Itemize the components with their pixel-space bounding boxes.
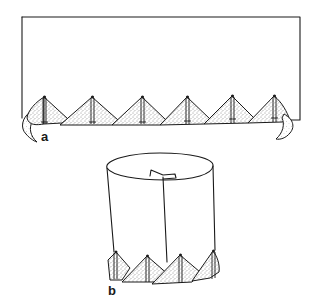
- panel-label-b: b: [108, 283, 116, 298]
- cylinder-right-side: [213, 166, 215, 250]
- seam-line: [163, 177, 167, 262]
- flap-4: [160, 95, 210, 125]
- cyl-flap-4: [192, 250, 219, 282]
- panel-b: b: [107, 153, 219, 298]
- strip-rectangle: [22, 17, 300, 120]
- cylinder-rim: [107, 153, 213, 180]
- flap-5: [204, 94, 254, 124]
- flap-1: [41, 95, 68, 124]
- cyl-flap-1: [108, 251, 130, 281]
- figure-diagram: a b: [0, 0, 312, 306]
- flap-2: [60, 95, 118, 125]
- panel-a: a: [22, 17, 300, 144]
- left-end-flap: [27, 97, 44, 125]
- cylinder-left-side: [107, 168, 114, 252]
- flap-3: [112, 95, 166, 125]
- panel-label-a: a: [41, 129, 49, 144]
